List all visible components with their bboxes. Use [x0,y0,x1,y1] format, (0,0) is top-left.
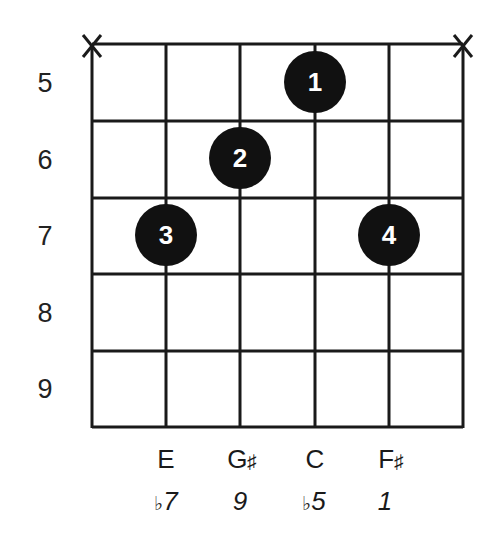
finger-label-3: 3 [146,221,186,249]
fret-number-9: 9 [30,376,60,403]
interval-string-4: ♭5 [284,488,344,517]
note-name-string-3: G♯ [212,446,272,475]
fret-number-7: 7 [30,223,60,250]
note-name-string-2: E [136,446,196,475]
note-name-string-5: F♯ [361,446,421,475]
finger-label-1: 1 [295,68,335,96]
fret-number-8: 8 [30,300,60,327]
fret-number-5: 5 [30,70,60,97]
finger-label-2: 2 [220,144,260,172]
interval-string-3: 9 [210,488,270,517]
interval-string-5: 1 [355,488,415,517]
note-name-string-4: C [285,446,345,475]
finger-label-4: 4 [369,221,409,249]
fret-number-6: 6 [30,147,60,174]
interval-string-2: ♭7 [136,488,196,517]
